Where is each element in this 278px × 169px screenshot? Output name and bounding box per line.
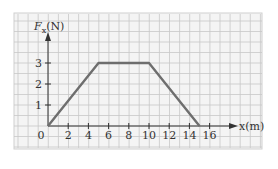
y-axis-label-main: F (33, 20, 42, 33)
y-tick-label: 3 (35, 57, 42, 70)
y-axis-label-unit: (N) (46, 20, 64, 33)
y-tick-label: 2 (35, 78, 42, 91)
force-position-chart: 0246810121416 123 x(m) Fx(N) (0, 0, 278, 169)
x-tick-label: 0 (38, 129, 45, 142)
x-tick-label: 4 (85, 129, 92, 142)
x-tick-label: 12 (162, 129, 176, 142)
x-axis-label: x(m) (239, 120, 264, 133)
graph-paper-background (14, 13, 262, 149)
y-tick-label: 1 (35, 99, 42, 112)
x-tick-label: 8 (125, 129, 132, 142)
x-tick-label: 2 (65, 129, 72, 142)
x-tick-label: 14 (182, 129, 196, 142)
x-tick-label: 10 (142, 129, 156, 142)
x-tick-label: 6 (105, 129, 112, 142)
y-axis-label: Fx(N) (33, 20, 64, 35)
x-tick-label: 16 (203, 129, 217, 142)
